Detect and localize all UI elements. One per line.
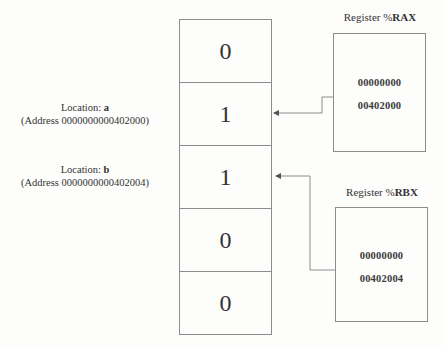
rax-pointer-arrow xyxy=(274,97,333,113)
pointer-connectors xyxy=(0,0,445,347)
rbx-pointer-arrow xyxy=(276,176,335,270)
